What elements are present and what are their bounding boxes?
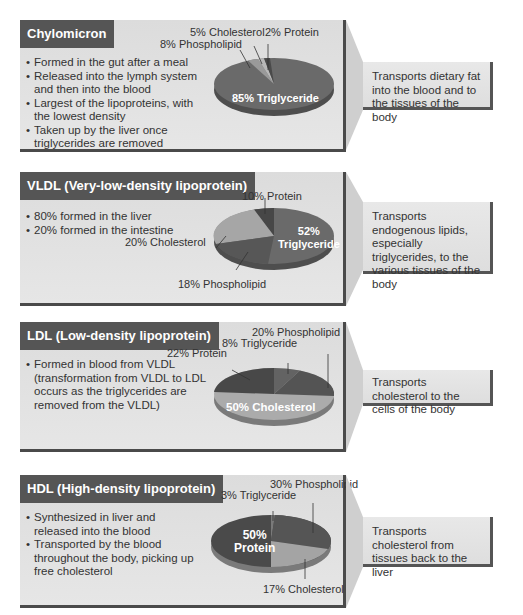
bullet-list: Formed in blood from VLDL (transformatio…: [26, 358, 206, 412]
bullet: Largest of the lipoproteins, with the lo…: [26, 97, 201, 124]
ldl-function-callout: Transports cholesterol to the cells of t…: [363, 370, 493, 406]
panel-title: Chylomicron: [20, 20, 114, 48]
bullet: Taken up by the liver once triglycerides…: [26, 124, 201, 151]
bullet: 80% formed in the liver: [26, 210, 201, 224]
protein-label: 22% Protein: [167, 347, 227, 359]
protein-label: 10% Protein: [242, 190, 302, 202]
bullet: Formed in the gut after a meal: [26, 56, 201, 70]
bullet-list: 80% formed in the liver 20% formed in th…: [26, 210, 201, 237]
bullet-list: Formed in the gut after a meal Released …: [26, 56, 201, 151]
protein-label: 50% Protein: [234, 529, 275, 555]
triglyceride-label: 85% Triglyceride: [232, 92, 319, 105]
triglyceride-pct: 52%: [278, 225, 340, 238]
hdl-function-callout: Transports cholesterol from tissues back…: [363, 517, 493, 567]
panel-title: HDL (High-density lipoprotein): [20, 475, 223, 503]
bullet: Released into the lymph system and then …: [26, 70, 201, 97]
panel-title: LDL (Low-density lipoprotein): [20, 322, 219, 350]
bullet-list: Synthesized in liver and released into t…: [26, 511, 201, 579]
bullet: 20% formed in the intestine: [26, 224, 201, 238]
bullet: Transported by the blood throughout the …: [26, 538, 201, 579]
phospholipid-label: 8% Phospholipid: [160, 38, 242, 50]
ldl-pie-chart: [210, 350, 340, 430]
protein-label: 2% Protein: [265, 26, 319, 38]
triglyceride-name: Triglyceride: [278, 238, 340, 251]
vldl-panel: VLDL (Very-low-density lipoprotein) 80% …: [20, 172, 346, 306]
chylomicron-function-callout: Transports dietary fat into the blood an…: [363, 62, 493, 110]
chylomicron-panel: Chylomicron Formed in the gut after a me…: [20, 20, 346, 152]
cholesterol-label: 5% Cholesterol: [190, 26, 265, 38]
chylomicron-pie-chart: [210, 40, 340, 120]
triglyceride-label: 3% Triglyceride: [221, 489, 296, 501]
bullet: Synthesized in liver and released into t…: [26, 511, 201, 538]
ldl-panel: LDL (Low-density lipoprotein) Formed in …: [20, 322, 346, 452]
cholesterol-label: 20% Cholesterol: [125, 236, 206, 248]
cholesterol-label: 50% Cholesterol: [226, 401, 315, 414]
hdl-panel: HDL (High-density lipoprotein) Synthesiz…: [20, 475, 346, 608]
protein-name: Protein: [234, 542, 275, 555]
vldl-function-callout: Transports endogenous lipids, especially…: [363, 202, 493, 274]
cholesterol-label: 17% Cholesterol: [263, 583, 344, 595]
phospholipid-label: 18% Phospholipid: [178, 278, 266, 290]
bullet: Formed in blood from VLDL (transformatio…: [26, 358, 206, 412]
triglyceride-label: 8% Triglyceride: [222, 337, 297, 349]
triglyceride-label: 52% Triglyceride: [278, 225, 340, 251]
